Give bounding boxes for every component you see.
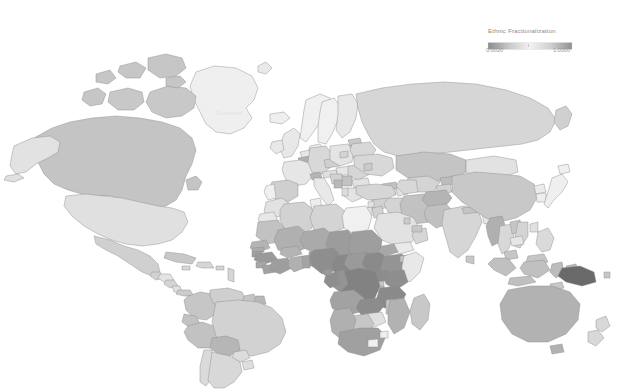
region-alaska-aleutians[interactable] [4, 174, 24, 182]
legend-tick-labels: 0.0020 1.0000 [486, 46, 570, 55]
country-canada-arctic-isle-b[interactable] [96, 70, 116, 84]
country-finland[interactable] [336, 94, 358, 138]
country-philippines[interactable] [536, 228, 554, 252]
country-russia-kaliningrad[interactable] [340, 151, 348, 158]
country-canada-ellesmere[interactable] [148, 54, 186, 78]
country-cambodia[interactable] [510, 236, 524, 246]
country-togo[interactable] [302, 255, 310, 268]
country-new-zealand-south[interactable] [588, 330, 604, 346]
country-egypt[interactable] [342, 206, 372, 234]
map-legend: Ethnic Fractionalization 0.0020 1.0000 [486, 27, 578, 67]
country-hispaniola[interactable] [196, 262, 214, 268]
country-eswatini[interactable] [380, 331, 388, 338]
country-russia-kamchatka[interactable] [554, 106, 572, 130]
country-jamaica[interactable] [182, 266, 190, 270]
country-sweden[interactable] [318, 98, 340, 144]
country-kuwait-qatar[interactable] [404, 218, 410, 224]
country-canada[interactable] [34, 116, 196, 208]
country-new-zealand-north[interactable] [596, 316, 610, 332]
country-canada-baffin[interactable] [146, 86, 196, 118]
country-india[interactable] [442, 206, 482, 258]
country-sri-lanka[interactable] [466, 256, 474, 264]
country-canada-arctic-isle-a[interactable] [118, 62, 146, 78]
country-albania[interactable] [342, 188, 348, 196]
country-indonesia-sumatra[interactable] [488, 258, 516, 276]
country-cuba[interactable] [164, 252, 196, 264]
legend-min-value: 0.0020 [486, 46, 503, 54]
country-greenland-isles[interactable] [258, 62, 272, 74]
country-mozambique[interactable] [388, 298, 410, 334]
country-taiwan[interactable] [530, 222, 538, 232]
country-papua-new-guinea[interactable] [558, 266, 596, 286]
country-north-korea[interactable] [534, 184, 546, 194]
country-japan[interactable] [544, 174, 568, 208]
country-south-africa[interactable] [338, 328, 386, 356]
country-puerto-rico[interactable] [216, 266, 224, 270]
country-bosnia[interactable] [334, 180, 342, 188]
country-portugal[interactable] [264, 184, 276, 200]
country-equatorial-guinea[interactable] [324, 269, 332, 275]
oceania-pacific-isles[interactable] [604, 272, 610, 278]
country-canada-arctic-isle-c[interactable] [166, 76, 186, 88]
country-lesotho[interactable] [368, 339, 378, 347]
legend-title: Ethnic Fractionalization [486, 27, 578, 35]
country-burkina-faso[interactable] [280, 246, 302, 258]
country-united-kingdom[interactable] [280, 128, 300, 158]
country-canada-banks-island[interactable] [82, 88, 106, 106]
country-ghana[interactable] [288, 256, 304, 272]
country-uae[interactable] [412, 225, 422, 232]
country-iceland[interactable] [270, 112, 290, 124]
country-greenland[interactable] [190, 66, 258, 134]
country-japan-hokkaido[interactable] [558, 164, 570, 174]
country-uruguay[interactable] [242, 360, 254, 370]
legend-mid-tick-mark [528, 44, 529, 47]
choropleth-map-figure: Greenland Ethnic Fractionalization 0.002… [0, 0, 620, 392]
country-russia[interactable] [356, 82, 556, 156]
legend-max-value: 1.0000 [553, 46, 570, 54]
country-indonesia-java[interactable] [508, 276, 536, 286]
country-canada-victoria-island[interactable] [108, 88, 144, 110]
country-indonesia-borneo[interactable] [520, 260, 550, 278]
map-landmasses [4, 54, 610, 388]
country-australia[interactable] [500, 286, 580, 342]
greenland-annotation-label: Greenland [216, 110, 243, 116]
country-australia-tasmania[interactable] [550, 344, 564, 354]
country-canada-newfoundland[interactable] [186, 176, 202, 190]
country-moldova[interactable] [364, 163, 372, 171]
caribbean-lesser-antilles[interactable] [228, 268, 234, 282]
country-south-korea[interactable] [536, 193, 546, 202]
country-madagascar[interactable] [410, 294, 430, 330]
